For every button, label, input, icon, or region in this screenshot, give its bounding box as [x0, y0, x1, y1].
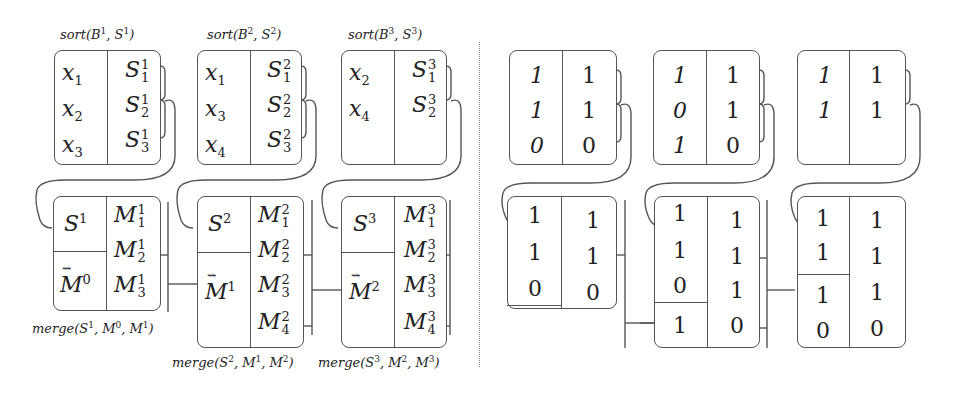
sum-cell: S21 [267, 58, 291, 84]
bit-cell: 0 [665, 275, 695, 297]
key-cell: x1 [62, 62, 83, 87]
merge-caption-1: merge(S1, M0, M1) [32, 320, 154, 336]
key-cell: x4 [205, 134, 226, 159]
bit-cell: 1 [718, 65, 748, 87]
bit-cell: 0 [665, 100, 695, 122]
output-cell: M13 [114, 273, 146, 299]
output-cell: M34 [404, 310, 436, 336]
bit-cell: 1 [665, 240, 695, 262]
merge-block-2-hdivider [197, 252, 250, 253]
merge-block-1-hdivider [53, 251, 106, 252]
key-cell: x1 [205, 62, 226, 87]
output-cell: M22 [258, 238, 290, 264]
sum-cell: S23 [267, 128, 291, 154]
bit-merge-block-2-divider [707, 196, 708, 348]
output-cell: M21 [258, 203, 290, 229]
bit-cell: 1 [810, 100, 840, 122]
bit-cell: 1 [722, 280, 752, 302]
bit-cell: 0 [520, 278, 550, 300]
bit-cell: 1 [862, 210, 892, 232]
sum-cell: S12 [125, 93, 149, 119]
bit-merge-block-1-divider [561, 196, 562, 309]
bit-cell: 1 [862, 65, 892, 87]
sort-caption-3: sort(B3, S3) [348, 26, 422, 42]
bit-sort-block-3-divider [849, 50, 850, 165]
sum-cell: S22 [267, 93, 291, 119]
key-cell: x4 [349, 98, 370, 123]
bit-cell: 1 [522, 65, 552, 87]
key-cell: x2 [349, 62, 370, 87]
m-label: ⇝M0 [60, 273, 91, 296]
bit-cell: 0 [722, 315, 752, 337]
bit-cell: 0 [578, 282, 608, 304]
bit-cell: 1 [578, 210, 608, 232]
sum-cell: S32 [412, 93, 436, 119]
bit-cell: 1 [862, 246, 892, 268]
output-cell: M11 [114, 203, 146, 229]
output-cell: M23 [258, 273, 290, 299]
merge-block-3-hdivider [341, 252, 394, 253]
s-label: S1 [64, 212, 87, 235]
bit-sort-block-2-divider [706, 50, 707, 165]
sum-cell: S13 [125, 128, 149, 154]
key-cell: x3 [205, 98, 226, 123]
output-cell: M24 [258, 310, 290, 336]
merge-caption-2: merge(S2, M1, M2) [172, 354, 294, 370]
output-cell: M31 [404, 203, 436, 229]
bit-cell: 1 [808, 285, 838, 307]
output-cell: M32 [404, 238, 436, 264]
panel-divider [479, 42, 480, 367]
m-label: ⇝M1 [205, 280, 236, 303]
key-cell: x2 [62, 98, 83, 123]
bit-cell: 1 [574, 100, 604, 122]
bit-cell: 1 [522, 100, 552, 122]
merge-caption-3: merge(S3, M2, M3) [318, 354, 440, 370]
bit-cell: 1 [862, 282, 892, 304]
bit-cell: 1 [722, 210, 752, 232]
bit-cell: 0 [718, 135, 748, 157]
key-cell: x3 [62, 134, 83, 159]
merge-block-2-divider [250, 196, 251, 348]
bit-cell: 1 [520, 242, 550, 264]
bit-cell: 1 [578, 246, 608, 268]
bit-cell: 1 [862, 100, 892, 122]
bit-cell: 0 [522, 135, 552, 157]
merge-block-3-divider [394, 196, 395, 348]
s-label: S3 [353, 212, 376, 235]
bit-cell: 1 [574, 65, 604, 87]
output-cell: M12 [114, 238, 146, 264]
sort-caption-2: sort(B2, S2) [207, 26, 281, 42]
sort-block-3-divider [394, 50, 395, 165]
bit-cell: 1 [520, 205, 550, 227]
bit-cell: 1 [665, 135, 695, 157]
bit-cell: 1 [722, 246, 752, 268]
bit-cell: 1 [665, 203, 695, 225]
merge-block-1-divider [106, 196, 107, 311]
bit-cell: 0 [574, 135, 604, 157]
bit-cell: 1 [808, 242, 838, 264]
bit-cell: 1 [810, 65, 840, 87]
bit-merge-block-2-hdivider [654, 302, 707, 303]
bit-cell: 1 [808, 208, 838, 230]
bit-merge-block-1-hdivider [507, 305, 561, 306]
m-label: ⇝M2 [349, 280, 380, 303]
output-cell: M33 [404, 273, 436, 299]
bit-cell: 0 [862, 318, 892, 340]
sort-block-1-divider [107, 50, 108, 165]
sort-block-2-divider [250, 50, 251, 165]
sum-cell: S31 [412, 58, 436, 84]
sum-cell: S11 [125, 58, 149, 84]
bit-cell: 0 [808, 320, 838, 342]
bit-cell: 1 [665, 315, 695, 337]
bit-cell: 1 [665, 65, 695, 87]
sort-caption-1: sort(B1, S1) [60, 26, 134, 42]
bit-sort-block-1-divider [562, 50, 563, 165]
bit-merge-block-3-hdivider [797, 274, 849, 275]
bit-merge-block-3-divider [849, 196, 850, 348]
bit-cell: 1 [718, 100, 748, 122]
s-label: S2 [208, 212, 231, 235]
